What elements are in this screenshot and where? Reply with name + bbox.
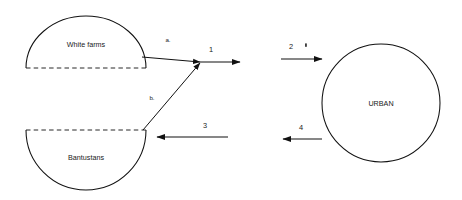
flow-b-label: b. <box>149 94 154 101</box>
flow-2-label: 2 <box>289 42 293 51</box>
diagram-svg: White farms Bantustans URBAN a. b. 1 <box>0 0 462 200</box>
white-farms-label: White farms <box>67 40 106 49</box>
urban-label: URBAN <box>368 99 393 108</box>
flow-3-label: 3 <box>203 121 207 130</box>
bantustans-label: Bantustans <box>68 153 104 162</box>
node-urban: URBAN <box>322 44 440 162</box>
flow-4-label: 4 <box>299 123 303 132</box>
diagram-canvas: White farms Bantustans URBAN a. b. 1 <box>0 0 462 200</box>
flow-a-line <box>142 57 200 62</box>
node-bantustans: Bantustans <box>26 130 146 190</box>
node-white-farms: White farms <box>26 16 146 68</box>
flow-b: b. <box>143 63 200 130</box>
flow-1: 1 <box>200 45 240 62</box>
flow-4: 4 <box>283 123 322 139</box>
flow-a: a. <box>142 36 200 62</box>
flow-a-label: a. <box>165 36 170 43</box>
flow-3: 3 <box>157 121 228 137</box>
flow-2: 2 <box>281 42 322 59</box>
flow-1-label: 1 <box>209 45 213 54</box>
stray-tick-mark <box>305 43 307 46</box>
